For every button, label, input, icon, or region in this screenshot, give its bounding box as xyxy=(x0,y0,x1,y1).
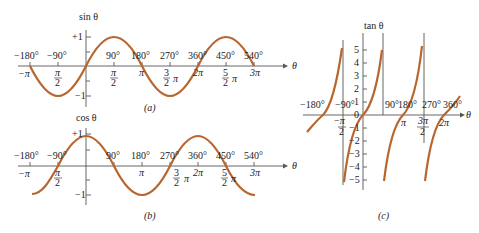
svg-text:540°: 540° xyxy=(244,50,263,61)
svg-text:−180°: −180° xyxy=(14,150,39,161)
svg-text:1: 1 xyxy=(354,96,359,107)
cos-chart: cos θ +1 −1 θ −180° −90° 90° 180° 270° 3… xyxy=(14,112,297,222)
svg-text:360°: 360° xyxy=(188,150,207,161)
svg-text:−90°: −90° xyxy=(335,99,355,110)
panel-label-c: (c) xyxy=(378,210,390,222)
svg-text:−1: −1 xyxy=(75,189,86,200)
svg-text:180°: 180° xyxy=(131,150,150,161)
svg-text:360°: 360° xyxy=(443,99,462,110)
svg-text:θ: θ xyxy=(292,160,297,171)
svg-text:180°: 180° xyxy=(398,99,417,110)
svg-text:−180°: −180° xyxy=(300,99,325,110)
theta-label: θ xyxy=(292,60,297,71)
svg-text:π: π xyxy=(139,167,145,178)
svg-text:π: π xyxy=(173,73,179,84)
svg-text:2: 2 xyxy=(420,126,425,137)
svg-text:π: π xyxy=(232,73,238,84)
svg-text:−90°: −90° xyxy=(47,50,67,61)
svg-text:270°: 270° xyxy=(422,99,441,110)
svg-text:π: π xyxy=(184,173,190,184)
svg-text:π: π xyxy=(401,117,407,128)
svg-text:2π: 2π xyxy=(193,167,204,178)
svg-text:2π: 2π xyxy=(439,117,450,128)
svg-text:270°: 270° xyxy=(160,150,179,161)
svg-text:2: 2 xyxy=(55,177,60,188)
svg-text:2: 2 xyxy=(164,77,169,88)
svg-text:3π: 3π xyxy=(249,167,261,178)
svg-text:2: 2 xyxy=(174,177,179,188)
tan-branch xyxy=(384,46,422,181)
svg-text:450°: 450° xyxy=(216,150,235,161)
tan-ylabel: tan θ xyxy=(364,20,384,31)
svg-text:2π: 2π xyxy=(193,67,204,78)
svg-text:−π: −π xyxy=(18,168,31,179)
svg-text:2: 2 xyxy=(339,126,344,137)
svg-text:+1: +1 xyxy=(72,128,83,139)
svg-text:540°: 540° xyxy=(244,150,263,161)
svg-text:−3: −3 xyxy=(349,148,360,159)
cos-ylabel: cos θ xyxy=(76,112,97,123)
svg-text:3π: 3π xyxy=(417,115,429,126)
svg-text:2: 2 xyxy=(55,77,60,88)
x-axis-arrow-icon xyxy=(283,164,288,169)
svg-text:−90°: −90° xyxy=(47,150,67,161)
panel-label-a: (a) xyxy=(144,102,156,114)
svg-text:2: 2 xyxy=(111,77,116,88)
svg-text:−2: −2 xyxy=(349,135,360,146)
svg-text:2: 2 xyxy=(222,177,227,188)
trig-figure: sin θ +1 −1 θ −180° −90° 90° 180° 270° 3… xyxy=(0,0,479,233)
svg-text:0: 0 xyxy=(354,109,359,120)
sin-chart: sin θ +1 −1 θ −180° −90° 90° 180° 270° 3… xyxy=(14,11,297,114)
svg-text:360°: 360° xyxy=(188,50,207,61)
svg-text:3: 3 xyxy=(354,70,359,81)
y-tick-minus1: −1 xyxy=(75,90,86,101)
svg-text:270°: 270° xyxy=(160,50,179,61)
svg-text:90°: 90° xyxy=(106,150,120,161)
sin-ylabel: sin θ xyxy=(79,11,98,22)
svg-text:θ: θ xyxy=(466,109,471,120)
panel-label-b: (b) xyxy=(144,210,156,222)
svg-text:−π: −π xyxy=(334,115,346,126)
svg-text:−1: −1 xyxy=(349,122,360,133)
svg-text:2: 2 xyxy=(354,83,359,94)
svg-text:450°: 450° xyxy=(216,50,235,61)
svg-text:180°: 180° xyxy=(131,50,150,61)
svg-text:90°: 90° xyxy=(385,99,399,110)
svg-text:3π: 3π xyxy=(249,67,261,78)
x-axis-arrow-icon xyxy=(283,64,288,69)
svg-text:90°: 90° xyxy=(106,50,120,61)
svg-text:2: 2 xyxy=(223,77,228,88)
svg-text:−5: −5 xyxy=(349,174,360,185)
tan-chart: tan θ 5 4 3 2 1 0 −1 −2 −3 −4 −5 θ −180°… xyxy=(300,20,471,222)
svg-text:−4: −4 xyxy=(349,161,360,172)
svg-text:−180°: −180° xyxy=(14,50,39,61)
svg-text:4: 4 xyxy=(354,57,359,68)
y-tick-plus1: +1 xyxy=(72,31,83,42)
svg-text:5: 5 xyxy=(354,44,359,55)
svg-text:−π: −π xyxy=(18,68,31,79)
